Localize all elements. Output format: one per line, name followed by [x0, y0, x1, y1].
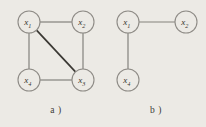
graph-node-a-x1[interactable]: x1 [18, 11, 40, 33]
graph-panel-a: x1x2x4x3a ) [18, 11, 94, 116]
graph-edge-a-x1-x3 [37, 30, 76, 72]
graph-node-b-x2[interactable]: x2 [175, 11, 197, 33]
panel-caption-a: a ) [50, 105, 62, 116]
graph-node-b-x4[interactable]: x4 [117, 69, 139, 91]
node-group: x1x2x4 [117, 11, 197, 91]
graph-node-b-x1[interactable]: x1 [117, 11, 139, 33]
graph-panel-b: x1x2x4b ) [117, 11, 197, 116]
graph-node-a-x3[interactable]: x3 [72, 69, 94, 91]
graph-node-a-x4[interactable]: x4 [18, 69, 40, 91]
graph-canvas: x1x2x4x3a )x1x2x4b ) [0, 0, 206, 127]
graph-node-a-x2[interactable]: x2 [72, 11, 94, 33]
graph-figure: x1x2x4x3a )x1x2x4b ) [0, 0, 206, 127]
edge-group [29, 22, 83, 80]
panel-caption-b: b ) [150, 105, 162, 116]
